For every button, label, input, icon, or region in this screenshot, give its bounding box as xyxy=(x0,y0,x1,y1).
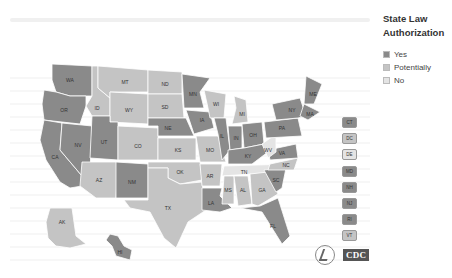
state-label-il: IL xyxy=(220,133,224,139)
state-box-ri[interactable]: RI xyxy=(342,214,357,225)
legend-item-yes: Yes xyxy=(383,48,451,61)
state-mi[interactable] xyxy=(232,96,248,124)
state-label-wa: WA xyxy=(66,77,75,83)
state-box-dc[interactable]: DC xyxy=(342,133,357,144)
state-box-vt[interactable]: VT xyxy=(342,230,357,241)
state-hi[interactable] xyxy=(106,234,132,260)
state-label-ny: NY xyxy=(289,107,297,113)
state-label-id: ID xyxy=(95,105,100,111)
state-label-pa: PA xyxy=(279,125,286,131)
state-label-ar: AR xyxy=(207,173,214,179)
swatch-yes xyxy=(383,51,390,58)
state-label-az: AZ xyxy=(96,177,102,183)
state-label-nd: ND xyxy=(161,81,169,87)
state-label-ga: GA xyxy=(258,187,266,193)
state-label-nc: NC xyxy=(282,162,290,168)
state-label-wv: WV xyxy=(264,147,273,153)
state-box-nj[interactable]: NJ xyxy=(342,198,357,209)
state-ut[interactable] xyxy=(90,116,118,160)
state-label-ia: IA xyxy=(200,117,205,123)
state-label-tn: TN xyxy=(241,169,248,175)
state-label-ak: AK xyxy=(59,219,66,225)
state-label-va: VA xyxy=(279,150,286,156)
state-label-tx: TX xyxy=(165,205,172,211)
state-label-sd: SD xyxy=(162,104,169,110)
state-box-md[interactable]: MD xyxy=(342,166,357,177)
hhs-eagle-icon xyxy=(315,245,335,265)
state-label-ky: KY xyxy=(245,153,252,159)
state-label-al: AL xyxy=(240,187,246,193)
legend-title-line2: Authorization xyxy=(383,26,451,40)
state-label-hi: HI xyxy=(118,249,123,255)
state-label-ne: NE xyxy=(165,125,173,131)
state-label-mn: MN xyxy=(189,91,197,97)
state-label-nm: NM xyxy=(128,179,136,185)
swatch-no xyxy=(383,77,390,84)
state-box-ct[interactable]: CT xyxy=(342,117,357,128)
state-label-ms: MS xyxy=(224,187,232,193)
small-states-boxes: CT DC DE MD NH NJ RI VT xyxy=(342,117,357,247)
state-label-co: CO xyxy=(134,143,142,149)
legend-label-no: No xyxy=(394,76,404,85)
state-me[interactable] xyxy=(304,76,322,104)
legend-title-line1: State Law xyxy=(383,12,451,26)
state-label-ok: OK xyxy=(176,169,184,175)
state-ak[interactable] xyxy=(46,208,86,248)
state-label-me: ME xyxy=(309,91,317,97)
legend-label-potentially: Potentially xyxy=(394,63,431,72)
state-label-ks: KS xyxy=(175,147,182,153)
state-label-or: OR xyxy=(60,107,68,113)
state-label-oh: OH xyxy=(249,132,257,138)
state-label-mt: MT xyxy=(121,79,128,85)
legend-label-yes: Yes xyxy=(394,50,407,59)
legend-item-no: No xyxy=(383,74,451,87)
state-box-nh[interactable]: NH xyxy=(342,182,357,193)
state-label-ma: MA xyxy=(306,111,314,117)
legend: State Law Authorization Yes Potentially … xyxy=(383,12,451,87)
state-label-fl: FL xyxy=(270,223,276,229)
state-label-ca: CA xyxy=(52,154,60,160)
cdc-logo: CDC xyxy=(343,249,369,261)
state-label-mi: MI xyxy=(239,111,245,117)
state-label-in: IN xyxy=(234,135,239,141)
state-label-nv: NV xyxy=(75,142,83,148)
state-label-mo: MO xyxy=(206,147,214,153)
legend-item-potentially: Potentially xyxy=(383,61,451,74)
state-label-sc: SC xyxy=(273,177,280,183)
state-label-ut: UT xyxy=(101,139,108,145)
state-box-de[interactable]: DE xyxy=(342,149,357,160)
state-label-wi: WI xyxy=(213,101,219,107)
swatch-potentially xyxy=(383,64,390,71)
logos: CDC xyxy=(315,245,369,265)
state-label-wy: WY xyxy=(125,107,134,113)
state-label-la: LA xyxy=(208,200,215,206)
